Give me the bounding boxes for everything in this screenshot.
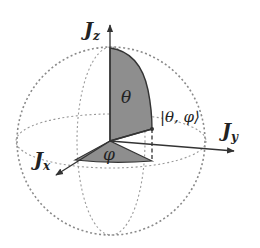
- jy-label: Jy: [219, 119, 239, 144]
- state-point: [150, 127, 154, 131]
- jx-label: Jx: [31, 148, 51, 173]
- bloch-sphere-diagram: Jz Jx Jy θ φ |θ, φ⟩: [0, 0, 260, 248]
- theta-label: θ: [121, 87, 131, 107]
- jz-label: Jz: [81, 18, 101, 43]
- state-label: |θ, φ⟩: [160, 108, 200, 126]
- phi-label: φ: [103, 144, 115, 164]
